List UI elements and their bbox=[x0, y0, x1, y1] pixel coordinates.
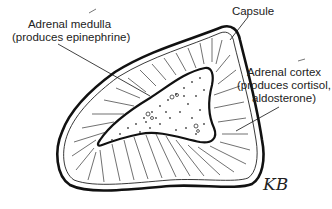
medulla-vesicles bbox=[146, 94, 199, 133]
medulla-title: Adrenal medulla bbox=[12, 18, 127, 31]
medulla-region bbox=[98, 68, 215, 146]
capsule-title: Capsule bbox=[228, 5, 278, 18]
label-capsule: Capsule bbox=[228, 5, 278, 18]
artist-signature: KB bbox=[263, 174, 288, 194]
capsule-outline bbox=[57, 26, 263, 190]
cortex-striations bbox=[72, 38, 250, 182]
medulla-cells bbox=[111, 77, 205, 141]
cortex-title: Adrenal cortex bbox=[236, 66, 332, 79]
capsule-inner-outline bbox=[64, 32, 258, 184]
label-adrenal-cortex: Adrenal cortex (produces cortisol, aldos… bbox=[236, 66, 332, 105]
tick-mark bbox=[89, 9, 96, 13]
label-adrenal-medulla: Adrenal medulla (produces epinephrine) bbox=[12, 18, 127, 44]
medulla-description: (produces epinephrine) bbox=[12, 31, 127, 44]
cortex-description-1: (produces cortisol, bbox=[236, 79, 332, 92]
adrenal-gland-diagram: Adrenal medulla (produces epinephrine) C… bbox=[0, 0, 332, 209]
tick-mark bbox=[298, 59, 305, 61]
cortex-description-2: aldosterone) bbox=[236, 92, 332, 105]
